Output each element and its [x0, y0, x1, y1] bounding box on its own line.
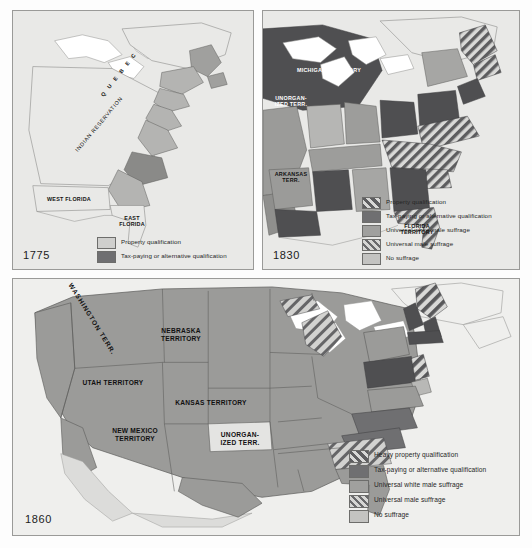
legend-item: Universal male suffrage: [362, 239, 514, 251]
legend-label: Heavy property qualification: [374, 450, 458, 459]
legend-item: Tax-paying or alternative qualification: [362, 211, 514, 223]
map-label-unorganized-territory: UNORGAN- IZED TERR.: [263, 95, 319, 108]
legend-item: Universal male suffrage: [349, 495, 513, 508]
map-panel-1830: MICHIGAN TERRITORY UNORGAN- IZED TERR. A…: [262, 10, 520, 270]
legend-item: Universal white male suffrage: [349, 480, 513, 493]
legend-label: No suffrage: [386, 253, 419, 261]
legend-swatch-no-suffrage: [349, 510, 369, 523]
map-label-kansas-territory: KANSAS TERRITORY: [155, 399, 267, 407]
legend-item: No suffrage: [349, 510, 513, 523]
legend-swatch-universal-male-suffrage: [362, 239, 381, 251]
legend-item: Tax-paying or alternative qualification: [349, 465, 513, 478]
legend-label: Universal white male suffrage: [386, 225, 470, 233]
map-label-utah-territory: UTAH TERRITORY: [59, 379, 167, 387]
map-label-michigan-territory: MICHIGAN TERRITORY: [281, 67, 377, 73]
legend-item: Heavy property qualification: [349, 450, 513, 463]
legend-label: Universal male suffrage: [386, 239, 453, 247]
map-panel-1775: Q U E B E C INDIAN RESERVATION WEST FLOR…: [12, 10, 254, 270]
legend-label: Universal white male suffrage: [374, 480, 463, 489]
legend-swatch-universal-male-suffrage: [349, 495, 369, 508]
map-panel-1860: WASHINGTON TERR. NEBRASKA TERRITORY UTAH…: [12, 278, 520, 536]
legend-1830: Property qualification Tax-paying or alt…: [362, 197, 514, 265]
legend-label: Tax-paying or alternative qualification: [374, 465, 486, 474]
legend-swatch-heavy-property-qualification: [349, 450, 369, 463]
year-label-1860: 1860: [25, 513, 52, 525]
legend-label: Property qualification: [121, 237, 181, 245]
legend-item: Property qualification: [97, 237, 247, 249]
legend-item: Property qualification: [362, 197, 514, 209]
legend-item: Universal white male suffrage: [362, 225, 514, 237]
map-label-east-florida: EAST FLORIDA: [111, 215, 153, 228]
legend-swatch-tax-paying-qualification: [362, 211, 381, 223]
map-label-arkansas-territory: ARKANSAS TERR.: [265, 171, 317, 184]
legend-label: Tax-paying or alternative qualification: [386, 211, 492, 219]
legend-swatch-no-suffrage: [362, 253, 381, 265]
map-label-west-florida: WEST FLORIDA: [33, 196, 105, 202]
map-label-nebraska-territory: NEBRASKA TERRITORY: [139, 327, 223, 343]
legend-swatch-universal-white-male-suffrage: [362, 225, 381, 237]
legend-swatch-universal-white-male-suffrage: [349, 480, 369, 493]
legend-label: No suffrage: [374, 510, 409, 519]
legend-swatch-tax-paying-qualification: [349, 465, 369, 478]
map-label-unorganized-territory: UNORGAN- IZED TERR.: [211, 431, 269, 447]
legend-1775: Property qualification Tax-paying or alt…: [97, 237, 247, 263]
map-figure: Q U E B E C INDIAN RESERVATION WEST FLOR…: [0, 0, 532, 548]
legend-1860: Heavy property qualification Tax-paying …: [349, 450, 513, 523]
legend-swatch-property-qualification: [97, 237, 116, 249]
map-canvas-1775: Q U E B E C INDIAN RESERVATION WEST FLOR…: [13, 11, 253, 269]
map-label-new-mexico-territory: NEW MEXICO TERRITORY: [85, 427, 185, 443]
legend-swatch-property-qualification: [362, 197, 381, 209]
legend-item: Tax-paying or alternative qualification: [97, 251, 247, 263]
year-label-1830: 1830: [273, 249, 300, 261]
legend-swatch-tax-paying-qualification: [97, 251, 116, 263]
year-label-1775: 1775: [23, 249, 50, 261]
legend-label: Property qualification: [386, 197, 446, 205]
legend-item: No suffrage: [362, 253, 514, 265]
legend-label: Universal male suffrage: [374, 495, 445, 504]
legend-label: Tax-paying or alternative qualification: [121, 251, 227, 259]
